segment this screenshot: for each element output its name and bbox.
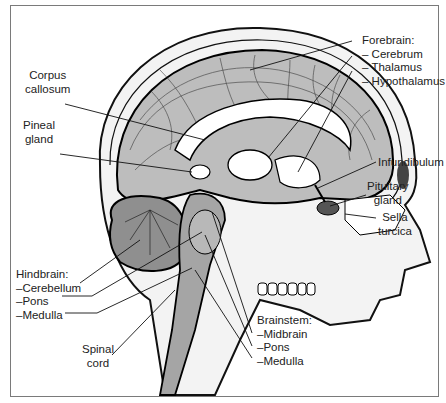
label-pineal-gland: Pineal gland [23, 119, 55, 146]
label-brainstem-pons: –Pons [257, 341, 312, 355]
label-hindbrain: Hindbrain: –Cerebellum –Pons –Medulla [16, 268, 81, 322]
label-spinal-cord: Spinal cord [82, 343, 114, 370]
label-hindbrain-medulla: –Medulla [16, 309, 81, 323]
label-hindbrain-cerebellum: –Cerebellum [16, 282, 81, 296]
label-brainstem: Brainstem: –Midbrain –Pons –Medulla [257, 314, 312, 368]
pituitary-gland [317, 201, 339, 215]
label-hypothalamus: – Hypothalamus [362, 75, 445, 89]
label-brainstem-medulla: –Medulla [257, 355, 312, 369]
label-hindbrain-pons: –Pons [16, 295, 81, 309]
label-thalamus: – Thalamus [362, 61, 445, 75]
label-pituitary-gland: Pituitary gland [367, 180, 409, 207]
label-brainstem-midbrain: –Midbrain [257, 328, 312, 342]
label-sella-turcica: Sella turcica [378, 211, 412, 238]
cerebellum [110, 196, 187, 271]
label-forebrain: Forebrain: – Cerebrum – Thalamus – Hypot… [362, 34, 445, 88]
pons [189, 210, 221, 254]
label-corpus-callosum: Corpus callosum [25, 69, 70, 96]
label-infundibulum: Infundibulum [378, 156, 444, 170]
thalamus [228, 150, 272, 180]
label-cerebrum: – Cerebrum [362, 48, 445, 62]
